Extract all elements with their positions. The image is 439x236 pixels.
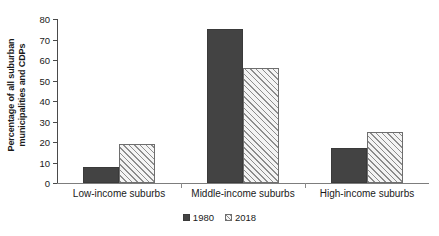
y-axis-title: Percentage of all suburban municipalitie… <box>0 0 34 190</box>
y-tick-mark <box>53 81 57 82</box>
y-axis-title-line-1: Percentage of all suburban <box>6 39 17 152</box>
y-tick-label: 0 <box>45 178 50 189</box>
x-axis-label-3: High-income suburbs <box>320 188 415 199</box>
bar-1980-high-income-suburbs <box>331 148 367 183</box>
y-tick-mark <box>53 40 57 41</box>
bar-2018-middle-income-suburbs <box>243 68 279 183</box>
y-tick-mark <box>53 19 57 20</box>
y-tick-label: 60 <box>39 55 50 66</box>
y-tick-label: 30 <box>39 116 50 127</box>
y-tick-mark <box>53 142 57 143</box>
y-tick-label: 40 <box>39 96 50 107</box>
bar-2018-high-income-suburbs <box>367 132 403 183</box>
y-axis-line <box>57 19 58 184</box>
chart-legend: 19802018 <box>0 212 439 223</box>
y-tick-label: 50 <box>39 75 50 86</box>
y-tick-mark <box>53 163 57 164</box>
y-tick-mark <box>53 60 57 61</box>
bar-2018-low-income-suburbs <box>119 144 155 183</box>
y-tick-mark <box>53 183 57 184</box>
x-axis-label-1: Low-income suburbs <box>73 188 165 199</box>
legend-label-2018: 2018 <box>235 212 256 223</box>
y-tick-mark <box>53 101 57 102</box>
y-axis-title-line-2: municipalities and CDPs <box>17 39 28 152</box>
bar-1980-middle-income-suburbs <box>207 29 243 183</box>
legend-swatch-2018 <box>225 214 232 221</box>
bar-chart: Percentage of all suburban municipalitie… <box>0 0 439 236</box>
x-axis-label-2: Middle-income suburbs <box>191 188 294 199</box>
y-tick-label: 10 <box>39 157 50 168</box>
x-axis-line <box>57 183 429 184</box>
x-axis-category-labels: Low-income suburbsMiddle-income suburbsH… <box>57 188 429 204</box>
bar-1980-low-income-suburbs <box>83 167 119 183</box>
legend-swatch-1980 <box>183 214 190 221</box>
legend-item-1980: 1980 <box>183 212 214 223</box>
y-tick-label: 80 <box>39 14 50 25</box>
plot-area: 01020304050607080 <box>57 19 429 183</box>
legend-label-1980: 1980 <box>193 212 214 223</box>
y-tick-label: 20 <box>39 137 50 148</box>
y-tick-label: 70 <box>39 34 50 45</box>
legend-item-2018: 2018 <box>225 212 256 223</box>
y-tick-mark <box>53 122 57 123</box>
